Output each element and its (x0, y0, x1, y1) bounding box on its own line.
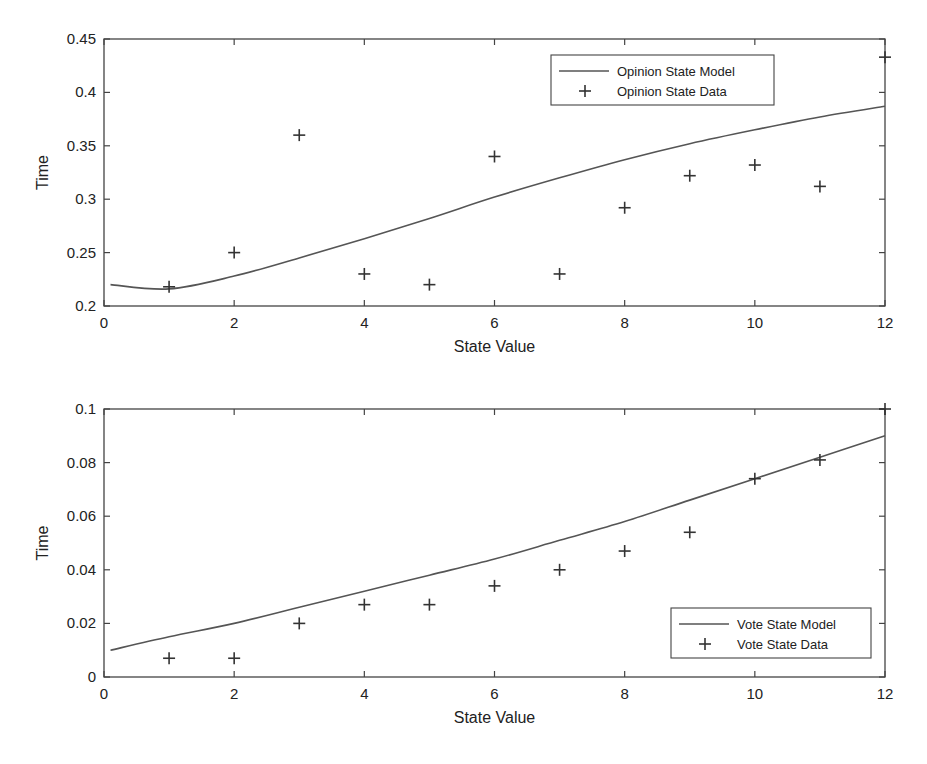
y-tick-label: 0.45 (67, 30, 96, 47)
data-point-marker (358, 599, 370, 611)
x-tick-label: 10 (746, 314, 763, 331)
opinion-plot: 0246810120.20.250.30.350.40.45State Valu… (34, 30, 893, 355)
legend-model-label: Vote State Model (737, 617, 836, 632)
x-tick-label: 8 (620, 314, 628, 331)
y-tick-label: 0 (88, 668, 96, 685)
data-point-marker (814, 180, 826, 192)
y-tick-label: 0.25 (67, 244, 96, 261)
x-tick-label: 4 (360, 685, 368, 702)
x-tick-label: 2 (230, 314, 238, 331)
data-point-marker (749, 159, 761, 171)
data-point-marker (554, 268, 566, 280)
data-point-marker (423, 599, 435, 611)
x-tick-label: 12 (877, 685, 894, 702)
x-axis-label: State Value (454, 338, 536, 355)
y-tick-label: 0.35 (67, 137, 96, 154)
y-tick-label: 0.1 (75, 400, 96, 417)
y-tick-label: 0.04 (67, 561, 96, 578)
data-point-marker (228, 247, 240, 259)
vote-plot: 02468101200.020.040.060.080.1State Value… (34, 400, 893, 726)
data-point-marker (554, 564, 566, 576)
data-point-marker (749, 473, 761, 485)
data-point-marker (358, 268, 370, 280)
x-tick-label: 0 (100, 314, 108, 331)
data-point-marker (489, 150, 501, 162)
x-tick-label: 10 (746, 685, 763, 702)
y-tick-label: 0.02 (67, 614, 96, 631)
y-tick-label: 0.06 (67, 507, 96, 524)
data-point-marker (619, 202, 631, 214)
legend-data-label: Opinion State Data (617, 84, 728, 99)
data-point-marker (619, 545, 631, 557)
x-tick-label: 2 (230, 685, 238, 702)
x-tick-label: 4 (360, 314, 368, 331)
x-tick-label: 6 (490, 314, 498, 331)
y-tick-label: 0.3 (75, 190, 96, 207)
y-tick-label: 0.4 (75, 83, 96, 100)
model-line (111, 106, 885, 289)
data-point-marker (293, 617, 305, 629)
data-point-marker (163, 652, 175, 664)
x-tick-label: 6 (490, 685, 498, 702)
y-axis-label: Time (34, 525, 51, 560)
x-tick-label: 12 (877, 314, 894, 331)
data-point-marker (879, 403, 891, 415)
data-point-marker (879, 51, 891, 63)
data-point-marker (228, 652, 240, 664)
legend-model-label: Opinion State Model (617, 64, 735, 79)
y-tick-label: 0.2 (75, 297, 96, 314)
data-point-marker (684, 170, 696, 182)
legend-data-label: Vote State Data (737, 637, 829, 652)
y-axis-label: Time (34, 155, 51, 190)
chart-figure: 0246810120.20.250.30.350.40.45State Valu… (0, 0, 927, 764)
x-tick-label: 8 (620, 685, 628, 702)
data-point-marker (423, 279, 435, 291)
data-point-marker (293, 129, 305, 141)
legend: Vote State ModelVote State Data (671, 608, 871, 658)
data-point-marker (684, 526, 696, 538)
data-point-marker (163, 281, 175, 293)
data-point-marker (489, 580, 501, 592)
legend: Opinion State ModelOpinion State Data (551, 55, 774, 105)
y-tick-label: 0.08 (67, 454, 96, 471)
x-axis-label: State Value (454, 709, 536, 726)
x-tick-label: 0 (100, 685, 108, 702)
